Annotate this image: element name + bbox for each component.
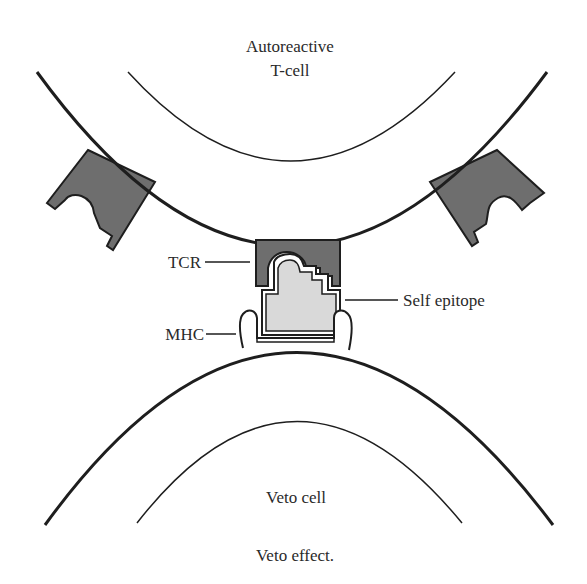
t-cell-label-line1: Autoreactive (246, 37, 334, 56)
veto-cell-label: Veto cell (266, 488, 326, 507)
t-cell-inner-membrane (128, 72, 455, 161)
veto-effect-diagram: Autoreactive T-cell TCR Self epitope MHC… (0, 0, 587, 584)
figure-caption: Veto effect. (256, 546, 334, 565)
tcr-label: TCR (168, 253, 202, 272)
mhc-label: MHC (165, 325, 204, 344)
left-tcr-receptor (47, 150, 155, 250)
self-epitope-label: Self epitope (403, 291, 485, 310)
t-cell-label-line2: T-cell (270, 61, 309, 80)
right-tcr-receptor (430, 150, 544, 246)
veto-cell-inner-membrane (137, 422, 462, 524)
